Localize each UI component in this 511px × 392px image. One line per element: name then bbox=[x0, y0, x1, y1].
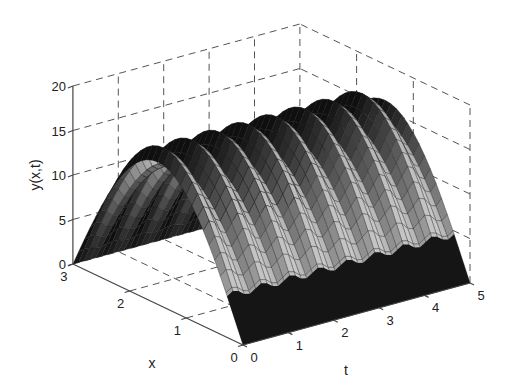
x-tick-label: 0 bbox=[230, 350, 237, 365]
x-tick-label: 3 bbox=[60, 269, 67, 284]
z-tick bbox=[68, 220, 73, 222]
x-tick-label: 2 bbox=[117, 296, 124, 311]
gridline bbox=[300, 24, 470, 105]
t-tick-label: 4 bbox=[432, 300, 439, 315]
z-tick-label: 15 bbox=[51, 124, 65, 139]
x-tick-label: 1 bbox=[174, 323, 181, 338]
t-axis-title: t bbox=[344, 362, 348, 378]
t-tick-label: 2 bbox=[341, 325, 348, 340]
z-tick bbox=[68, 131, 73, 133]
t-tick bbox=[470, 283, 474, 285]
z-tick bbox=[68, 175, 73, 177]
z-axis-title: y(x,t) bbox=[27, 159, 43, 190]
t-tick-label: 1 bbox=[296, 338, 303, 353]
x-axis-title: x bbox=[149, 355, 156, 371]
x-tick bbox=[125, 291, 130, 293]
z-tick-label: 10 bbox=[51, 168, 65, 183]
z-tick-label: 20 bbox=[51, 79, 65, 94]
t-tick bbox=[288, 333, 292, 335]
t-tick bbox=[379, 308, 383, 310]
x-tick bbox=[68, 264, 73, 266]
t-tick bbox=[425, 295, 429, 297]
t-tick-label: 5 bbox=[477, 288, 484, 303]
z-tick bbox=[68, 86, 73, 88]
t-tick bbox=[334, 320, 338, 322]
x-axis-line bbox=[73, 264, 243, 345]
t-tick bbox=[243, 345, 247, 347]
gridline bbox=[73, 24, 300, 86]
t-tick-label: 3 bbox=[387, 313, 394, 328]
x-tick bbox=[238, 345, 243, 347]
surface-mesh bbox=[73, 92, 470, 345]
z-tick-label: 5 bbox=[59, 213, 66, 228]
t-tick-label: 0 bbox=[250, 350, 257, 365]
surface-plot: 051015200123012345 y(x,t) x t bbox=[0, 0, 511, 392]
x-tick bbox=[181, 318, 186, 320]
